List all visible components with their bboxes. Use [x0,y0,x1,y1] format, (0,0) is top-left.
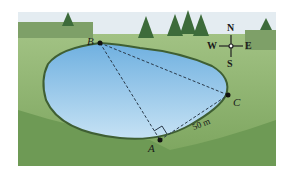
point-c [226,93,231,98]
bushes-left [18,22,93,38]
compass-east: E [245,40,252,51]
pond-diagram: B A C 50 m N S E W [0,0,293,178]
point-b [98,41,103,46]
compass-south: S [227,58,233,69]
label-b: B [87,35,94,47]
pond-illustration [0,0,293,178]
compass-west: W [207,40,217,51]
compass-north: N [227,22,234,33]
label-a: A [148,142,155,154]
point-a [158,138,163,143]
label-c: C [233,96,240,108]
